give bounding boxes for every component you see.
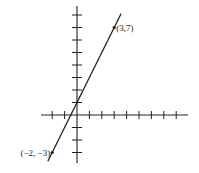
tick-marks	[52, 15, 176, 153]
graph-line	[48, 14, 121, 162]
axes	[41, 6, 188, 163]
point-label-b: (−2, −3)	[21, 148, 51, 158]
point-marker-b	[51, 151, 54, 154]
point-label-a: (3,7)	[116, 23, 133, 33]
coordinate-plane: (3,7) (−2, −3)	[0, 0, 199, 173]
